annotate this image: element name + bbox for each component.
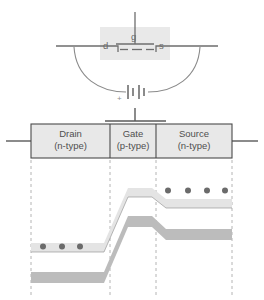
electron-group-source (165, 188, 228, 194)
energy-band-diagram (31, 160, 232, 296)
region-label-source-doping: (n-type) (178, 140, 211, 151)
battery-polarity-label: + (117, 94, 122, 103)
battery-symbol (128, 85, 144, 99)
symbol-source-label: s (159, 40, 164, 51)
region-label-source-name: Source (179, 128, 209, 139)
region-label-gate-name: Gate (123, 128, 144, 139)
region-label-gate-doping: (p-type) (117, 140, 150, 151)
symbol-drain-label: d (103, 40, 108, 51)
figure-canvas: d s g + (0, 0, 264, 300)
electron-dot (204, 188, 210, 194)
electron-dot (59, 244, 65, 250)
symbol-gate-label: g (131, 31, 136, 42)
region-label-drain-doping: (n-type) (54, 140, 87, 151)
region-label-drain-name: Drain (59, 128, 82, 139)
band-diagram-figure: d s g + (0, 0, 264, 300)
electron-dot (77, 244, 83, 250)
device-cross-section-group: Drain (n-type) Gate (p-type) Source (n-t… (6, 108, 258, 158)
electron-dot (222, 188, 228, 194)
electron-dot (165, 188, 171, 194)
electron-dot (185, 188, 191, 194)
electron-dot (40, 244, 46, 250)
circuit-symbol-group: d s g + (56, 12, 218, 103)
